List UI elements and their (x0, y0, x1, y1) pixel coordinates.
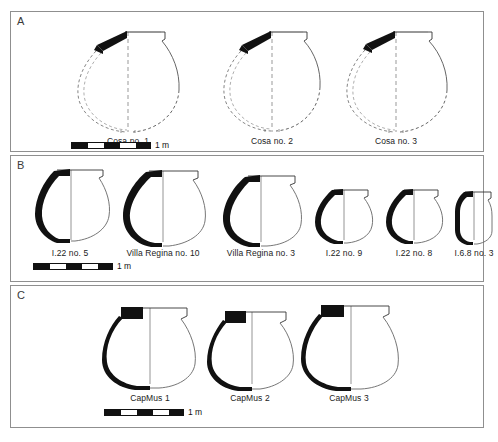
vessel-cosa-2 (207, 20, 337, 138)
vessel-capmus-3 (301, 296, 401, 392)
vessel-capmus-1 (101, 298, 199, 392)
vessel-caption: CapMus 1 (101, 393, 199, 403)
scalebar-bar (33, 263, 113, 270)
vessel-caption: Cosa no. 2 (207, 136, 337, 146)
scalebar-segment (121, 410, 137, 415)
vessel-villa-regina-no3 (216, 168, 306, 248)
vessel-i68-no3 (451, 186, 497, 248)
vessel-cosa-1 (63, 20, 193, 138)
scalebar-label: 1 m (155, 141, 169, 150)
scalebar-segment (136, 143, 150, 148)
vessel-villa-regina-no10 (117, 164, 209, 248)
panel-b: B I.22 no. 5 Vi (10, 155, 484, 282)
vessel-caption: Cosa no. 3 (331, 136, 461, 146)
vessel-caption: I.22 no. 5 (27, 248, 113, 258)
vessel-caption: I.6.8 no. 3 (441, 248, 498, 258)
scalebar-segment (34, 264, 50, 269)
vessel-capmus-2 (206, 302, 298, 392)
scalebar-panel-b: 1 m (33, 262, 131, 271)
scalebar-segment (105, 410, 121, 415)
scalebar-segment (88, 143, 104, 148)
scalebar-segment (120, 143, 136, 148)
scalebar-bar (104, 409, 184, 416)
vessel-caption: I.22 no. 8 (379, 248, 449, 258)
scalebar-label: 1 m (117, 262, 131, 271)
vessel-i22-no8 (381, 184, 447, 248)
panel-c: C CapMus 1 (10, 285, 484, 428)
scalebar-segment (104, 143, 120, 148)
scalebar-segment (137, 410, 153, 415)
scalebar-bar (71, 142, 151, 149)
scalebar-panel-c: 1 m (104, 408, 202, 417)
vessel-i22-no9 (311, 184, 377, 248)
vessel-cosa-3 (331, 20, 461, 138)
vessel-caption: CapMus 3 (299, 393, 399, 403)
vessel-caption: Villa Regina no. 10 (111, 248, 215, 258)
vessel-caption: CapMus 2 (204, 393, 296, 403)
panel-a-label: A (17, 15, 25, 27)
scalebar-label: 1 m (188, 408, 202, 417)
scalebar-segment (50, 264, 66, 269)
scalebar-segment (153, 410, 169, 415)
scalebar-panel-a: 1 m (71, 141, 169, 150)
scalebar-segment (169, 410, 183, 415)
scalebar-segment (72, 143, 88, 148)
vessel-caption: I.22 no. 9 (309, 248, 379, 258)
scalebar-segment (98, 264, 112, 269)
panel-c-label: C (17, 289, 25, 301)
panel-b-label: B (17, 159, 25, 171)
panel-a: A (10, 11, 484, 152)
scalebar-segment (66, 264, 82, 269)
scalebar-segment (82, 264, 98, 269)
vessel-caption: Villa Regina no. 3 (207, 248, 315, 258)
vessel-i22-no5 (27, 164, 113, 248)
